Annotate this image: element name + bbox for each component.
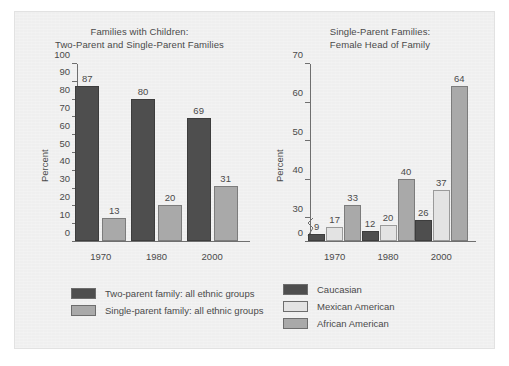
bar-value-label: 13 xyxy=(109,205,120,216)
bar-value-label: 20 xyxy=(383,212,394,223)
bar-value-label: 37 xyxy=(436,177,447,188)
bar-value-label: 12 xyxy=(365,218,376,229)
y-tick-label: 70 xyxy=(59,101,70,112)
bar xyxy=(344,205,361,241)
y-tick xyxy=(72,81,77,82)
y-tick xyxy=(305,241,310,242)
y-tick xyxy=(72,63,77,64)
bar-value-label: 33 xyxy=(347,192,358,203)
x-category-label: 1970 xyxy=(90,251,111,262)
legend-item: Two-parent family: all ethnic groups xyxy=(71,288,263,299)
legend-label: Single-parent family: all ethnic groups xyxy=(105,305,263,316)
y-tick xyxy=(305,140,310,141)
bar-value-label: 40 xyxy=(401,166,412,177)
y-tick-label: 0 xyxy=(65,226,70,237)
y-tick-label: 60 xyxy=(59,119,70,130)
y-tick-label: 40 xyxy=(59,155,70,166)
y-tick xyxy=(305,102,310,103)
bar xyxy=(398,179,415,242)
bar-value-label: 69 xyxy=(193,105,204,116)
legend-label: Mexican American xyxy=(317,301,395,312)
legend-label: Two-parent family: all ethnic groups xyxy=(105,288,254,299)
legend-item: Single-parent family: all ethnic groups xyxy=(71,305,263,316)
bar-value-label: 20 xyxy=(165,192,176,203)
bar xyxy=(131,99,155,241)
figure-panel: Families with Children: Two-Parent and S… xyxy=(14,11,495,349)
bar-value-label: 17 xyxy=(329,214,340,225)
bar xyxy=(102,218,126,241)
y-tick-label: 30 xyxy=(292,202,303,213)
y-tick-label: 90 xyxy=(59,66,70,77)
legend-left: Two-parent family: all ethnic groupsSing… xyxy=(71,288,263,322)
legend-label: African American xyxy=(317,318,389,329)
bar xyxy=(415,220,432,241)
bar xyxy=(308,234,325,241)
bar-value-label: 26 xyxy=(418,207,429,218)
y-tick-label: 0 xyxy=(298,226,303,237)
y-tick xyxy=(305,179,310,180)
y-tick xyxy=(305,63,310,64)
x-category-label: 2000 xyxy=(431,251,452,262)
y-tick-label: 70 xyxy=(292,48,303,59)
bar xyxy=(326,227,343,241)
bar xyxy=(214,186,238,241)
x-axis-line-left xyxy=(77,241,250,242)
y-tick-label: 60 xyxy=(292,87,303,98)
legend-item: African American xyxy=(283,318,395,329)
y-axis-label-right: Percent xyxy=(274,149,285,182)
legend-swatch xyxy=(71,305,96,316)
chart-title-left-line2: Two-Parent and Single-Parent Families xyxy=(15,39,264,52)
chart-single-parent-female-head: Single-Parent Families: Female Head of F… xyxy=(264,12,496,350)
bar xyxy=(433,190,450,241)
y-tick-label: 50 xyxy=(292,125,303,136)
chart-title-left-line1: Families with Children: xyxy=(15,26,264,39)
chart-families-with-children: Families with Children: Two-Parent and S… xyxy=(15,12,264,350)
x-category-label: 1970 xyxy=(324,251,345,262)
y-axis-label-left: Percent xyxy=(39,149,50,182)
bar xyxy=(380,225,397,241)
plot-area-right: 03040506070 91733122040263764 1970198020… xyxy=(310,64,470,242)
bar xyxy=(362,231,379,241)
y-tick-label: 50 xyxy=(59,137,70,148)
bar xyxy=(187,118,211,241)
x-category-label: 1980 xyxy=(146,251,167,262)
legend-label: Caucasian xyxy=(317,284,362,295)
legend-swatch xyxy=(283,318,308,329)
bar xyxy=(75,86,99,241)
x-axis-line-right xyxy=(310,241,476,242)
chart-title-left: Families with Children: Two-Parent and S… xyxy=(15,26,264,51)
bar-value-label: 31 xyxy=(220,173,231,184)
bar xyxy=(158,205,182,241)
x-category-label: 1980 xyxy=(377,251,398,262)
bar-value-label: 80 xyxy=(138,86,149,97)
x-category-label: 2000 xyxy=(202,251,223,262)
chart-title-right-line1: Single-Parent Families: xyxy=(264,26,496,39)
y-tick-label: 40 xyxy=(292,164,303,175)
y-tick xyxy=(72,241,77,242)
legend-item: Caucasian xyxy=(283,284,395,295)
legend-swatch xyxy=(283,301,308,312)
legend-item: Mexican American xyxy=(283,301,395,312)
legend-swatch xyxy=(283,284,308,295)
legend-swatch xyxy=(71,288,96,299)
bar-value-label: 64 xyxy=(454,73,465,84)
y-tick-label: 80 xyxy=(59,84,70,95)
y-axis-line-right xyxy=(310,64,311,242)
y-tick-label: 100 xyxy=(54,48,70,59)
y-tick-label: 10 xyxy=(59,208,70,219)
y-tick-label: 20 xyxy=(59,190,70,201)
plot-area-left: 0102030405060708090100 871380206931 1970… xyxy=(77,64,244,242)
bar-value-label: 9 xyxy=(314,221,319,232)
legend-right: CaucasianMexican AmericanAfrican America… xyxy=(283,284,395,335)
bar-value-label: 87 xyxy=(82,73,93,84)
bar xyxy=(451,86,468,241)
y-tick-label: 30 xyxy=(59,173,70,184)
